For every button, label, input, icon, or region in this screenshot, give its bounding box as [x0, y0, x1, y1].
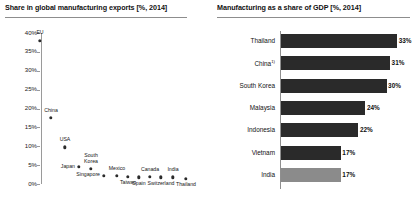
- bar-row[interactable]: Indonesia22%: [212, 122, 419, 139]
- bar-rect[interactable]: [281, 101, 365, 115]
- scatter-point[interactable]: [137, 176, 140, 179]
- bar-row[interactable]: India17%: [212, 167, 419, 184]
- scatter-y-axis: [41, 33, 42, 184]
- bar-rect[interactable]: [281, 146, 341, 160]
- bar-value-label: 17%: [342, 149, 355, 156]
- figure-container: Share in global manufacturing exports [%…: [0, 0, 419, 198]
- scatter-point[interactable]: [102, 174, 105, 177]
- bar-rect[interactable]: [281, 168, 341, 182]
- bar-rect[interactable]: [281, 34, 397, 48]
- y-axis-tick-label: 15%: [25, 124, 37, 131]
- bar-value-label: 31%: [392, 59, 405, 66]
- scatter-point-label: Singapore: [76, 172, 100, 178]
- y-axis-tick-label: 10%: [25, 143, 37, 150]
- scatter-point[interactable]: [171, 176, 174, 179]
- y-axis-tick: 0%: [13, 181, 37, 188]
- bar-value-label: 22%: [360, 126, 373, 133]
- y-axis-tick-label: 0%: [28, 181, 37, 188]
- scatter-point-label: India: [167, 167, 178, 173]
- bar-rect[interactable]: [281, 123, 358, 137]
- scatter-point-label: Spain: [132, 181, 145, 187]
- y-axis-tick-mark: [37, 90, 40, 91]
- bar-category-label: Thailand: [212, 37, 275, 44]
- panel-manufacturing-exports: Share in global manufacturing exports [%…: [0, 0, 205, 198]
- bar-category-label: Indonesia: [212, 126, 275, 133]
- scatter-point[interactable]: [115, 174, 118, 177]
- bar-value-label: 30%: [388, 82, 401, 89]
- y-axis-tick: 15%: [13, 124, 37, 131]
- y-axis-tick-label: 35%: [25, 48, 37, 55]
- y-axis-tick: 5%: [13, 162, 37, 169]
- y-axis-tick-label: 20%: [25, 105, 37, 112]
- scatter-point-label: Thailand: [176, 182, 196, 188]
- panel-manufacturing-gdp-share: Manufacturing as a share of GDP [%, 2014…: [212, 0, 419, 198]
- scatter-point-label: EU: [36, 30, 43, 36]
- scatter-point-label: Canada: [141, 167, 159, 173]
- y-axis-tick-mark: [37, 184, 40, 185]
- y-axis-tick-label: 25%: [25, 86, 37, 93]
- bar-category-label: South Korea: [212, 82, 275, 89]
- y-axis-tick: 35%: [13, 48, 37, 55]
- scatter-point[interactable]: [49, 116, 52, 119]
- scatter-point-label: USA: [60, 137, 71, 143]
- bar-value-label: 17%: [342, 171, 355, 178]
- scatter-point[interactable]: [184, 177, 187, 180]
- y-axis-tick-mark: [37, 127, 40, 128]
- y-axis-tick: 20%: [13, 105, 37, 112]
- bar-category-label: China1): [212, 59, 275, 67]
- bar-category-label: Vietnam: [212, 149, 275, 156]
- bar-category-label: India: [212, 171, 275, 178]
- y-axis-tick-label: 5%: [28, 162, 37, 169]
- y-axis-tick-mark: [37, 146, 40, 147]
- scatter-point-label: Mexico: [109, 166, 125, 172]
- scatter-point-label: China: [44, 108, 58, 114]
- bar-chart: Thailand33%China1)31%South Korea30%Malay…: [212, 0, 419, 198]
- bar-category-label: Malaysia: [212, 104, 275, 111]
- y-axis-tick-label: 40%: [25, 30, 37, 37]
- bar-value-label: 33%: [399, 37, 412, 44]
- scatter-point[interactable]: [159, 176, 162, 179]
- y-axis-tick-mark: [37, 52, 40, 53]
- bar-rect[interactable]: [281, 56, 390, 70]
- bar-rect[interactable]: [281, 79, 387, 93]
- bar-row[interactable]: Thailand33%: [212, 33, 419, 50]
- scatter-point[interactable]: [89, 167, 92, 170]
- y-axis-tick-mark: [37, 109, 40, 110]
- scatter-chart: 0%5%10%15%20%25%30%35%40%EUChinaUSAJapan…: [0, 0, 205, 198]
- scatter-point[interactable]: [77, 165, 80, 168]
- y-axis-tick: 25%: [13, 86, 37, 93]
- y-axis-tick: 40%: [13, 30, 37, 37]
- bar-row[interactable]: South Korea30%: [212, 78, 419, 95]
- y-axis-tick-label: 30%: [25, 67, 37, 74]
- bar-row[interactable]: Malaysia24%: [212, 100, 419, 117]
- scatter-point-label: SouthKorea: [84, 153, 98, 164]
- y-axis-tick: 10%: [13, 143, 37, 150]
- y-axis-tick-mark: [37, 71, 40, 72]
- scatter-point-label: Japan: [61, 164, 75, 170]
- scatter-point[interactable]: [126, 175, 129, 178]
- bar-value-label: 24%: [367, 104, 380, 111]
- bar-row[interactable]: China1)31%: [212, 55, 419, 72]
- y-axis-tick-mark: [37, 165, 40, 166]
- y-axis-tick: 30%: [13, 67, 37, 74]
- scatter-point[interactable]: [63, 146, 66, 149]
- bar-row[interactable]: Vietnam17%: [212, 145, 419, 162]
- scatter-point-label: Switzerland: [148, 181, 175, 187]
- scatter-point[interactable]: [148, 175, 151, 178]
